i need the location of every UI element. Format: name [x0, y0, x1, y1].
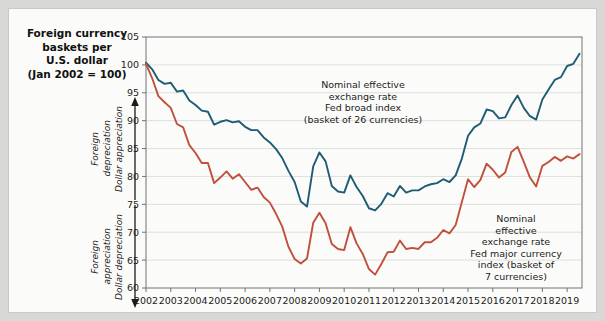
x-tick-label: 2015: [456, 295, 480, 306]
x-tick-label: 2018: [530, 295, 554, 306]
x-tick-label: 2005: [208, 295, 232, 306]
annotation-major-index: Nominaleffectiveexchange rateFed major c…: [461, 213, 571, 282]
y-tick-label: 100: [121, 59, 139, 70]
series-line-broad-index: [146, 54, 580, 211]
figure-panel: Foreign currency baskets per U.S. dollar…: [8, 8, 597, 313]
x-tick-label: 2006: [233, 295, 257, 306]
x-tick-label: 2004: [183, 295, 207, 306]
annotation-broad-index: Nominal effectiveexchange rateFed broad …: [283, 79, 443, 125]
x-tick-label: 2012: [382, 295, 406, 306]
annotation-line: Nominal effective: [283, 79, 443, 91]
x-tick-label: 2009: [307, 295, 331, 306]
y-axis-labels: 6065707580859095100105: [121, 31, 139, 293]
y-tick-label: 70: [127, 227, 139, 238]
x-tick-label: 2017: [505, 295, 529, 306]
x-tick-label: 2010: [332, 295, 356, 306]
x-tick-label: 2003: [159, 295, 183, 306]
annotation-line: Fed broad index: [283, 102, 443, 114]
x-tick-label: 2002: [134, 295, 158, 306]
x-tick-label: 2016: [481, 295, 505, 306]
y-axis-ticks: [142, 37, 146, 288]
y-tick-label: 90: [127, 115, 139, 126]
y-tick-label: 95: [127, 87, 139, 98]
x-tick-label: 2008: [283, 295, 307, 306]
annotation-line: index (basket of: [461, 259, 571, 271]
y-tick-label: 75: [127, 199, 139, 210]
y-tick-label: 80: [127, 171, 139, 182]
annotation-line: Fed major currency: [461, 248, 571, 260]
annotation-line: exchange rate: [461, 236, 571, 248]
annotation-line: (basket of 26 currencies): [283, 114, 443, 126]
y-tick-label: 85: [127, 143, 139, 154]
x-axis-labels: 2002200320042005200620072008200920102011…: [134, 295, 579, 306]
annotation-line: exchange rate: [283, 91, 443, 103]
x-tick-label: 2013: [406, 295, 430, 306]
x-axis-ticks: [146, 288, 567, 292]
x-tick-label: 2019: [555, 295, 579, 306]
x-tick-label: 2007: [258, 295, 282, 306]
y-tick-label: 65: [127, 255, 139, 266]
x-tick-label: 2011: [357, 295, 381, 306]
x-tick-label: 2014: [431, 295, 455, 306]
annotation-line: Nominal: [461, 213, 571, 225]
annotation-line: 7 currencies): [461, 271, 571, 283]
y-tick-label: 60: [127, 282, 139, 293]
annotation-line: effective: [461, 225, 571, 237]
y-tick-label: 105: [121, 31, 139, 42]
